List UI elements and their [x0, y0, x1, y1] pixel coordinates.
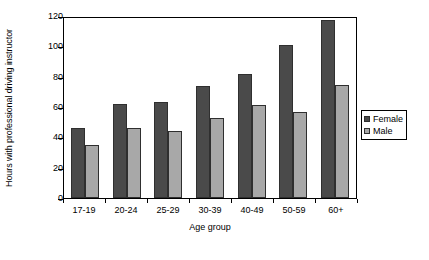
bar-group — [231, 18, 273, 198]
bar-female-20-24 — [113, 104, 127, 198]
legend-item-male: Male — [364, 125, 403, 137]
legend-label: Female — [373, 114, 403, 124]
x-axis-tick-mark — [357, 199, 358, 203]
y-axis-title-text: Hours with professional driving instruct… — [4, 29, 14, 187]
bar-male-17-19 — [85, 145, 99, 198]
bar-chart: Hours with professional driving instruct… — [0, 0, 429, 260]
legend-item-female: Female — [364, 113, 403, 125]
x-axis-title: Age group — [63, 222, 357, 232]
legend-swatch-icon — [364, 128, 370, 134]
x-axis-tick-mark — [315, 199, 316, 203]
x-axis-tick-mark — [273, 199, 274, 203]
bar-female-60+ — [321, 20, 335, 198]
bar-female-17-19 — [71, 128, 85, 198]
x-axis-tick-mark — [105, 199, 106, 203]
legend: FemaleMale — [361, 110, 407, 140]
x-axis-tick-mark — [231, 199, 232, 203]
bar-female-30-39 — [196, 86, 210, 198]
x-axis-tick-mark — [63, 199, 64, 203]
x-axis-label-60+: 60+ — [306, 205, 366, 215]
bar-group — [64, 18, 106, 198]
bar-male-30-39 — [210, 118, 224, 198]
bar-group — [314, 18, 356, 198]
y-axis-title: Hours with professional driving instruct… — [0, 0, 18, 215]
bar-male-60+ — [335, 85, 349, 198]
bar-group — [273, 18, 315, 198]
bar-female-50-59 — [279, 45, 293, 198]
bar-group — [189, 18, 231, 198]
x-axis-tick-mark — [189, 199, 190, 203]
bar-male-20-24 — [127, 128, 141, 198]
bar-female-40-49 — [238, 74, 252, 198]
plot-area — [63, 17, 357, 199]
bar-male-25-29 — [168, 131, 182, 198]
bar-male-40-49 — [252, 105, 266, 198]
legend-swatch-icon — [364, 116, 370, 122]
legend-label: Male — [373, 126, 393, 136]
bar-female-25-29 — [154, 102, 168, 198]
bar-group — [106, 18, 148, 198]
bar-group — [147, 18, 189, 198]
bars-layer — [64, 18, 356, 198]
x-axis-tick-mark — [147, 199, 148, 203]
bar-male-50-59 — [293, 112, 307, 198]
